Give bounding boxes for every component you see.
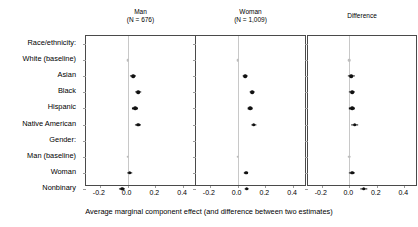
x-tick [155, 186, 156, 188]
category-label-column: Race/ethnicity:White (baseline)AsianBlac… [0, 0, 78, 227]
point-marker [243, 74, 247, 78]
panel-title-man: Man(N = 676) [85, 8, 196, 23]
x-tick [210, 186, 211, 188]
x-tick-label: 0.4 [398, 189, 408, 197]
y-tick [193, 44, 196, 45]
y-tick [83, 157, 86, 158]
category-label-woman: Woman [51, 168, 76, 176]
panel-title-text: Difference [347, 12, 377, 19]
x-tick-label: 0.2 [371, 189, 381, 197]
category-label-black: Black [58, 87, 76, 95]
point-marker [136, 123, 140, 127]
panel-sample-size: (N = 676) [85, 16, 196, 24]
point-marker [131, 74, 135, 78]
category-label-hispanic: Hispanic [48, 103, 76, 111]
x-tick [100, 186, 101, 188]
category-label-white-baseline: White (baseline) [23, 55, 76, 63]
point-marker [236, 59, 239, 62]
y-tick [193, 141, 196, 142]
category-label-man-baseline: Man (baseline) [27, 152, 76, 160]
y-tick [83, 141, 86, 142]
y-tick [193, 92, 196, 93]
point-marker [136, 91, 140, 95]
y-tick [305, 60, 308, 61]
x-tick [377, 186, 378, 188]
y-tick [83, 108, 86, 109]
point-marker [133, 107, 137, 111]
point-marker [353, 123, 357, 127]
x-tick-label: 0.2 [150, 189, 160, 197]
point-marker [350, 107, 354, 111]
plot-area [308, 36, 416, 185]
y-tick [193, 173, 196, 174]
y-tick [193, 157, 196, 158]
panel-title-woman: Woman(N = 1,009) [195, 8, 306, 23]
point-marker [362, 187, 366, 191]
y-tick [83, 60, 86, 61]
point-marker [252, 123, 256, 127]
point-marker [120, 187, 124, 191]
category-label-native-american: Native American [22, 120, 76, 128]
x-tick [238, 186, 239, 188]
panel-woman [195, 35, 306, 186]
panel-title-text: Man [134, 8, 147, 15]
point-marker [250, 91, 254, 95]
y-tick [305, 92, 308, 93]
point-marker [348, 59, 351, 62]
x-tick-label: 0.2 [260, 189, 270, 197]
y-tick [83, 189, 86, 190]
point-marker [244, 171, 248, 175]
y-tick [193, 60, 196, 61]
y-tick [193, 76, 196, 77]
point-marker [350, 74, 354, 78]
panel-man [85, 35, 196, 186]
x-tick-label: 0.0 [343, 189, 353, 197]
y-tick [305, 125, 308, 126]
y-tick [83, 76, 86, 77]
panel-title-text: Woman [239, 8, 261, 15]
point-marker [350, 171, 354, 175]
point-marker [245, 187, 249, 191]
x-tick [293, 186, 294, 188]
y-tick [193, 189, 196, 190]
x-tick-label: -0.2 [315, 189, 327, 197]
x-tick-label: -0.2 [203, 189, 215, 197]
y-tick [305, 157, 308, 158]
x-tick [183, 186, 184, 188]
x-tick [265, 186, 266, 188]
plot-area [86, 36, 195, 185]
x-tick-label: 0.4 [177, 189, 187, 197]
category-label-race-ethnicity: Race/ethnicity: [28, 39, 76, 47]
y-tick [305, 44, 308, 45]
y-tick [305, 108, 308, 109]
y-tick [83, 125, 86, 126]
x-tick-label: -0.2 [93, 189, 105, 197]
category-label-nonbinary: Nonbinary [42, 184, 76, 192]
x-tick-label: 0.4 [287, 189, 297, 197]
x-axis-label: Average marginal component effect (and d… [0, 207, 418, 216]
category-label-asian: Asian [58, 71, 77, 79]
x-tick [349, 186, 350, 188]
panel-title-difference: Difference [307, 12, 417, 20]
y-tick [193, 108, 196, 109]
x-tick [128, 186, 129, 188]
y-tick [83, 173, 86, 174]
y-tick [305, 173, 308, 174]
y-tick [83, 92, 86, 93]
y-tick [305, 76, 308, 77]
x-tick-label: 0.0 [232, 189, 242, 197]
point-marker [126, 155, 129, 158]
point-marker [348, 155, 351, 158]
x-tick [322, 186, 323, 188]
plot-area [196, 36, 305, 185]
point-marker [248, 107, 252, 111]
category-label-gender: Gender: [49, 136, 76, 144]
point-marker [236, 155, 239, 158]
panel-sample-size: (N = 1,009) [195, 16, 306, 24]
point-marker [350, 91, 354, 95]
y-tick [305, 141, 308, 142]
point-marker [126, 59, 129, 62]
y-tick [305, 189, 308, 190]
forest-plot-figure: Race/ethnicity:White (baseline)AsianBlac… [0, 0, 418, 227]
panel-difference [307, 35, 417, 186]
